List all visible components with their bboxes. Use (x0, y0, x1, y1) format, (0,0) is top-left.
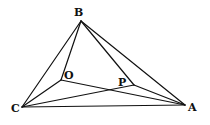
label-C: C (11, 102, 20, 115)
label-O: O (64, 69, 74, 82)
label-B: B (74, 6, 83, 19)
segment-BC (22, 21, 81, 107)
diagram-edges (22, 21, 185, 107)
triangle-diagram: B O P C A (0, 0, 210, 125)
segment-PA (134, 85, 185, 105)
segment-CA (22, 105, 185, 107)
label-P: P (118, 76, 126, 89)
label-A: A (187, 101, 197, 114)
